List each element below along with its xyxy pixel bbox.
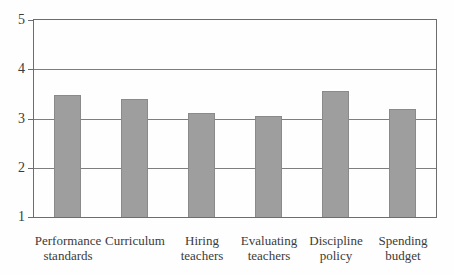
- y-axis-label-4: 4: [1, 61, 25, 77]
- bar-discipline-policy: [322, 91, 349, 217]
- y-axis-label-3: 3: [1, 111, 25, 127]
- y-tick-mark-4: [28, 69, 33, 70]
- gridline-y-2: [34, 168, 436, 169]
- bar-curriculum: [121, 99, 148, 217]
- gridline-y-3: [34, 119, 436, 120]
- plot-area: [33, 19, 437, 218]
- y-axis-label-2: 2: [1, 160, 25, 176]
- bar-hiring-teachers: [188, 113, 215, 217]
- bar-chart-figure: 12345 Performance standardsCurriculumHir…: [0, 0, 454, 275]
- x-axis-label-spending-budget: Spending budget: [364, 233, 442, 263]
- bar-spending-budget: [389, 109, 416, 217]
- y-tick-mark-1: [28, 217, 33, 218]
- y-axis-label-5: 5: [1, 12, 25, 28]
- bar-performance-standards: [54, 95, 81, 217]
- y-tick-mark-2: [28, 168, 33, 169]
- gridline-y-4: [34, 69, 436, 70]
- y-tick-mark-3: [28, 119, 33, 120]
- y-tick-mark-5: [28, 20, 33, 21]
- y-axis-label-1: 1: [1, 209, 25, 225]
- bar-evaluating-teachers: [255, 116, 282, 217]
